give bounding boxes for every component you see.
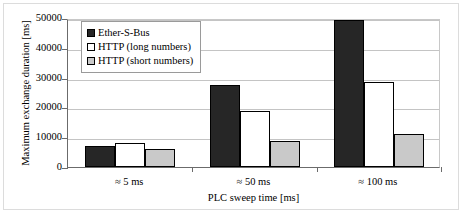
legend-label: HTTP (long numbers) — [98, 40, 191, 54]
y-tick-label: 10000 — [14, 132, 62, 143]
chart-figure: Maximum exchange duration [ms] 010000200… — [0, 0, 462, 213]
y-axis-title: Maximum exchange duration [ms] — [18, 18, 34, 168]
legend-label: HTTP (short numbers) — [98, 54, 193, 68]
bar — [145, 149, 175, 167]
gridline — [68, 80, 439, 81]
bar — [270, 141, 300, 167]
legend-swatch-icon — [87, 57, 95, 65]
x-tick-label: ≈ 100 ms — [316, 176, 440, 187]
y-tick-mark — [62, 168, 68, 169]
legend-label: Ether-S-Bus — [98, 26, 150, 40]
legend-swatch-icon — [87, 29, 95, 37]
y-tick-label: 40000 — [14, 43, 62, 54]
bar — [115, 143, 145, 167]
x-tick-mark — [317, 167, 318, 172]
y-tick-label: 0 — [14, 162, 62, 173]
bar — [210, 85, 240, 167]
bar — [364, 82, 394, 167]
x-tick-mark — [441, 167, 442, 172]
bar — [394, 134, 424, 167]
y-tick-label: 50000 — [14, 13, 62, 24]
x-tick-label: ≈ 50 ms — [191, 176, 315, 187]
legend-item: Ether-S-Bus — [87, 26, 193, 40]
y-tick-label: 20000 — [14, 102, 62, 113]
bar — [334, 20, 364, 168]
bar — [240, 111, 270, 167]
bar — [85, 146, 115, 167]
legend-swatch-icon — [87, 43, 95, 51]
x-tick-label: ≈ 5 ms — [67, 176, 191, 187]
legend-item: HTTP (long numbers) — [87, 40, 193, 54]
chart-legend: Ether-S-BusHTTP (long numbers)HTTP (shor… — [81, 21, 201, 73]
x-tick-mark — [192, 167, 193, 172]
y-tick-label: 30000 — [14, 73, 62, 84]
legend-item: HTTP (short numbers) — [87, 54, 193, 68]
x-axis-title: PLC sweep time [ms] — [67, 192, 440, 203]
